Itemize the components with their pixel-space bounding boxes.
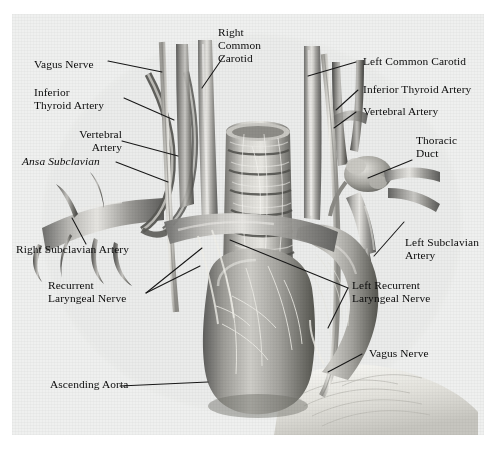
label-recurrent-laryngeal-nerve: Recurrent Laryngeal Nerve — [48, 279, 126, 305]
label-left-common-carotid: Left Common Carotid — [363, 55, 466, 68]
label-ansa-subclavian: Ansa Subclavian — [22, 155, 100, 168]
label-vagus-nerve-left: Vagus Nerve — [34, 58, 94, 71]
figure-page: Vagus Nerve Inferior Thyroid Artery Vert… — [0, 0, 496, 451]
label-right-common-carotid: Right Common Carotid — [218, 26, 261, 66]
label-inferior-thyroid-artery-right: Inferior Thyroid Artery — [363, 83, 471, 96]
label-left-recurrent-laryngeal-nerve: Left Recurrent Laryngeal Nerve — [352, 279, 430, 305]
label-ascending-aorta: Ascending Aorta — [50, 378, 128, 391]
label-left-subclavian-artery: Left Subclavian Artery — [405, 236, 479, 262]
illustration-panel: Vagus Nerve Inferior Thyroid Artery Vert… — [12, 14, 484, 435]
label-inferior-thyroid-artery-left: Inferior Thyroid Artery — [34, 86, 104, 112]
label-vertebral-artery-right: Vertebral Artery — [363, 105, 438, 118]
anatomical-illustration — [12, 14, 484, 435]
ascending-aorta-vessel — [203, 248, 315, 418]
label-vertebral-artery-left: Vertebral Artery — [16, 128, 122, 154]
left-common-carotid-vessel — [304, 46, 322, 220]
label-right-subclavian-artery: Right Subclavian Artery — [16, 243, 129, 256]
label-thoracic-duct: Thoracic Duct — [416, 134, 457, 160]
label-vagus-nerve-right: Vagus Nerve — [369, 347, 429, 360]
